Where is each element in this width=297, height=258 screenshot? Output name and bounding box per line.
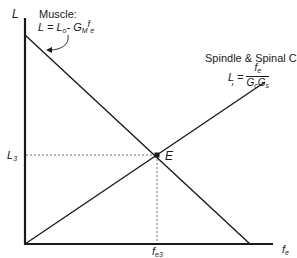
l3-tick-sub: 3 — [13, 155, 17, 162]
spindle-num-sub: e — [257, 67, 261, 74]
equilibrium-point — [155, 153, 160, 158]
l3-tick-label: L3 — [7, 149, 17, 165]
spindle-line — [25, 82, 265, 244]
spindle-den-g2-sub: s — [266, 82, 270, 89]
equilibrium-label: E — [165, 150, 173, 162]
spindle-numerator: fe — [246, 63, 269, 77]
diagram-canvas — [0, 0, 297, 258]
muscle-formula-f-sub: e — [90, 27, 94, 34]
muscle-formula-lhs: L = L — [38, 21, 63, 33]
spindle-denominator: GcGs — [246, 77, 269, 91]
muscle-line — [25, 35, 250, 244]
y-axis-label: L — [12, 8, 19, 20]
muscle-pointer-arrow — [50, 35, 68, 50]
arrowhead-icon — [46, 47, 52, 53]
muscle-formula-mid: - G — [66, 21, 81, 33]
spindle-den-g2: G — [258, 77, 266, 88]
spindle-fraction: fe GcGs — [246, 63, 269, 91]
spindle-formula-lhs: L = — [228, 71, 243, 83]
x-axis-label-sub: e — [285, 249, 289, 256]
fe3-tick-label: fe3 — [152, 245, 163, 258]
spindle-formula: L = fe GcGs — [228, 63, 269, 91]
fe3-tick-sub: e3 — [155, 251, 163, 258]
x-axis-label: fe — [282, 243, 289, 258]
muscle-formula-mid-sub: M — [82, 27, 88, 34]
muscle-title: Muscle: — [39, 8, 77, 20]
muscle-formula-f: f — [88, 19, 91, 29]
muscle-formula: L = Lo- GMfe — [38, 21, 94, 37]
